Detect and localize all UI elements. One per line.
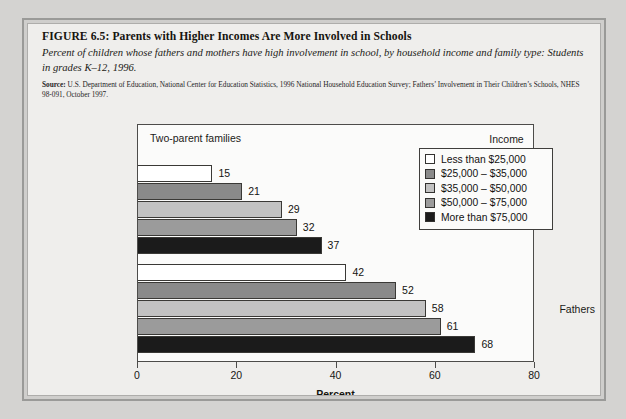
- figure-header: FIGURE 6.5: Parents with Higher Incomes …: [42, 30, 594, 100]
- bar-fathers-series-0: [138, 165, 212, 182]
- bar-row: 52: [138, 282, 533, 299]
- legend-label: $35,000 – $50,000: [441, 183, 527, 194]
- x-tick: [137, 362, 138, 368]
- legend-box: Less than $25,000$25,000 – $35,000$35,00…: [419, 148, 553, 230]
- legend-item: $25,000 – $35,000: [425, 167, 547, 182]
- legend-label: $50,000 – $75,000: [441, 197, 527, 208]
- legend-label: $25,000 – $35,000: [441, 168, 527, 179]
- legend-item: More than $75,000: [425, 210, 547, 225]
- figure-outer-border: FIGURE 6.5: Parents with Higher Incomes …: [22, 18, 606, 401]
- figure-subtitle: Percent of children whose fathers and mo…: [42, 46, 587, 75]
- x-axis-ticks: [137, 362, 534, 368]
- bar-row: 42: [138, 264, 533, 281]
- x-tick-label: 0: [134, 369, 140, 381]
- bar-value-label: 52: [402, 284, 414, 296]
- x-tick: [534, 362, 535, 368]
- x-tick: [336, 362, 337, 368]
- bar-mothers-series-3: [138, 318, 441, 335]
- plot-box: Two-parent families 1521293237 425258616…: [137, 124, 534, 362]
- x-axis-title: Percent: [137, 388, 534, 396]
- x-tick-label: 60: [429, 369, 441, 381]
- bar-row: 37: [138, 237, 533, 254]
- legend-item: $50,000 – $75,000: [425, 196, 547, 211]
- bar-value-label: 29: [288, 203, 300, 215]
- legend-swatch-icon: [425, 212, 435, 222]
- x-axis-tick-labels: 020406080: [137, 369, 534, 383]
- legend-item: $35,000 – $50,000: [425, 181, 547, 196]
- x-tick: [236, 362, 237, 368]
- bar-fathers-series-2: [138, 201, 282, 218]
- figure-page: FIGURE 6.5: Parents with Higher Incomes …: [0, 0, 626, 419]
- bar-fathers-series-1: [138, 183, 242, 200]
- x-tick-label: 20: [230, 369, 242, 381]
- bar-fathers-series-4: [138, 237, 322, 254]
- legend-label: More than $75,000: [441, 212, 527, 223]
- bar-group-mothers: 4252586168: [138, 264, 533, 354]
- bar-mothers-series-0: [138, 264, 346, 281]
- legend-swatch-icon: [425, 183, 435, 193]
- figure-title: FIGURE 6.5: Parents with Higher Incomes …: [42, 30, 594, 43]
- bar-value-label: 15: [218, 167, 230, 179]
- bar-mothers-series-2: [138, 300, 426, 317]
- bar-row: 58: [138, 300, 533, 317]
- bar-value-label: 21: [248, 185, 260, 197]
- legend-swatch-icon: [425, 154, 435, 164]
- chart-area: Two-parent families 1521293237 425258616…: [28, 120, 601, 396]
- legend-swatch-icon: [425, 169, 435, 179]
- bar-fathers-series-3: [138, 219, 297, 236]
- bar-value-label: 58: [432, 302, 444, 314]
- legend-swatch-icon: [425, 198, 435, 208]
- x-tick-label: 80: [528, 369, 540, 381]
- category-label-fathers: Fathers: [500, 303, 601, 315]
- bar-mothers-series-1: [138, 282, 396, 299]
- source-label: Source:: [42, 80, 66, 89]
- bar-mothers-series-4: [138, 336, 475, 353]
- bar-value-label: 68: [481, 338, 493, 350]
- legend-title: Income: [419, 133, 594, 145]
- bar-value-label: 61: [447, 320, 459, 332]
- legend-label: Less than $25,000: [441, 154, 526, 165]
- plot-title: Two-parent families: [150, 132, 241, 144]
- bar-value-label: 37: [328, 239, 340, 251]
- figure-source: Source: U.S. Department of Education, Na…: [42, 80, 590, 100]
- bar-row: 61: [138, 318, 533, 335]
- source-text: U.S. Department of Education, National C…: [42, 80, 579, 99]
- bar-row: 68: [138, 336, 533, 353]
- bar-value-label: 32: [303, 221, 315, 233]
- figure-inner-border: FIGURE 6.5: Parents with Higher Incomes …: [27, 23, 601, 396]
- legend-item: Less than $25,000: [425, 152, 547, 167]
- x-tick: [435, 362, 436, 368]
- bar-value-label: 42: [352, 266, 364, 278]
- x-tick-label: 40: [330, 369, 342, 381]
